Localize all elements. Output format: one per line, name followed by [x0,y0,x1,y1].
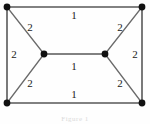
figure-caption: Figure 1 [0,115,150,123]
edge-weight-top-right-diagonal: 2 [117,22,123,33]
vertex-bottom-right [139,100,146,107]
edge-bottom-left-diagonal [7,54,44,103]
edge-weight-bottom-left-diagonal: 2 [27,78,33,89]
edge-weight-middle: 1 [71,61,77,72]
edge-weight-bottom: 1 [71,89,77,100]
vertex-mid-left [41,51,48,58]
edge-bottom-right-diagonal [105,54,142,103]
edge-weight-right: 2 [132,49,138,60]
vertex-mid-right [102,51,109,58]
edge-weight-top-left-diagonal: 2 [27,22,33,33]
edge-weight-left: 2 [11,49,17,60]
edge-weight-top: 1 [71,10,77,21]
edge-weight-bottom-right-diagonal: 2 [117,78,123,89]
vertex-top-left [4,4,11,11]
vertex-top-right [139,4,146,11]
vertex-bottom-left [4,100,11,107]
figure-canvas: 1 2 2 1 2 2 2 2 1 Figure 1 [0,0,150,124]
